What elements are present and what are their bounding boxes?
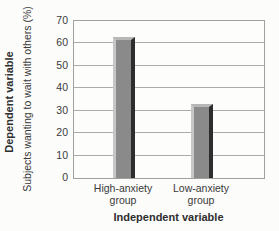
y-tick-label-10: 10 — [42, 149, 68, 161]
y-tick-label-20: 20 — [42, 126, 68, 138]
y-tick-label-0: 0 — [42, 171, 68, 183]
gridline-30 — [74, 110, 264, 111]
bar-low-anxiety-group — [191, 104, 213, 178]
plot-area — [73, 20, 265, 179]
x-axis-title: Independent variable — [73, 211, 264, 223]
category-label-low-anxiety-group: Low-anxietygroup — [151, 182, 251, 206]
bar-high-anxiety-group — [113, 37, 135, 178]
y-tick-label-60: 60 — [42, 36, 68, 48]
y-tick-label-40: 40 — [42, 81, 68, 93]
gridline-60 — [74, 42, 264, 43]
y-axis-title: Dependent variable — [3, 51, 15, 152]
y-tick-label-30: 30 — [42, 104, 68, 116]
y-tick-label-50: 50 — [42, 59, 68, 71]
bar-chart-figure: Dependent variable Subjects wanting to w… — [0, 0, 279, 231]
gridline-50 — [74, 65, 264, 66]
y-axis-label: Subjects wanting to wait with others (%) — [21, 6, 33, 192]
y-tick-label-70: 70 — [42, 14, 68, 26]
gridline-20 — [74, 132, 264, 133]
gridline-10 — [74, 155, 264, 156]
gridline-40 — [74, 87, 264, 88]
